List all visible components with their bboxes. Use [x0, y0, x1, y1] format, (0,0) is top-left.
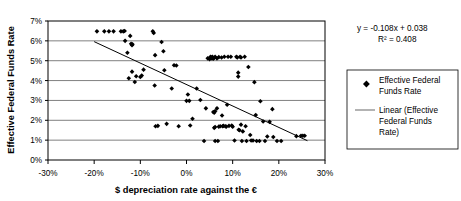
y-axis-tick-label: 4%: [30, 77, 42, 86]
y-axis-tick-label: 5%: [30, 57, 42, 66]
chart-canvas: 0%1%2%3%4%5%6%7% -30%-20%-10%0%10%20%30%…: [0, 0, 461, 201]
x-axis-tick-label: -20%: [85, 169, 104, 178]
y-axis-title: Effective Federal Funds Rate: [6, 26, 16, 154]
y-axis: 0%1%2%3%4%5%6%7%: [30, 17, 48, 165]
legend-item-series-label-2: Funds Rate: [379, 87, 422, 96]
x-axis-tick-label: -10%: [131, 169, 150, 178]
y-axis-tick-label: 6%: [30, 37, 42, 46]
x-axis-tick-label: -30%: [38, 169, 57, 178]
x-axis-tick-label: 0%: [181, 169, 193, 178]
x-axis-tick-label: 20%: [271, 169, 287, 178]
y-axis-tick-label: 0%: [30, 156, 42, 165]
x-axis-title: $ depreciation rate against the €: [115, 185, 257, 195]
legend-item-series-label-1: Effective Federal: [379, 76, 440, 85]
legend-item-trend-label-2: Federal Funds: [379, 117, 432, 126]
y-axis-tick-label: 2%: [30, 116, 42, 125]
scatter-chart: 0%1%2%3%4%5%6%7% -30%-20%-10%0%10%20%30%…: [0, 0, 461, 201]
r-squared-value: R² = 0.408: [378, 35, 417, 44]
y-axis-tick-label: 3%: [30, 96, 42, 105]
x-axis-tick-label: 30%: [317, 169, 333, 178]
plot-background: [48, 21, 325, 160]
legend-item-trend-label-1: Linear (Effective: [379, 106, 438, 115]
regression-equation: y = -0.108x + 0.038: [357, 24, 428, 33]
y-axis-tick-label: 7%: [30, 17, 42, 26]
x-axis-tick-label: 10%: [224, 169, 240, 178]
y-axis-tick-label: 1%: [30, 136, 42, 145]
x-axis: -30%-20%-10%0%10%20%30%: [38, 160, 333, 178]
legend-item-trend-label-3: Rate): [379, 128, 399, 137]
